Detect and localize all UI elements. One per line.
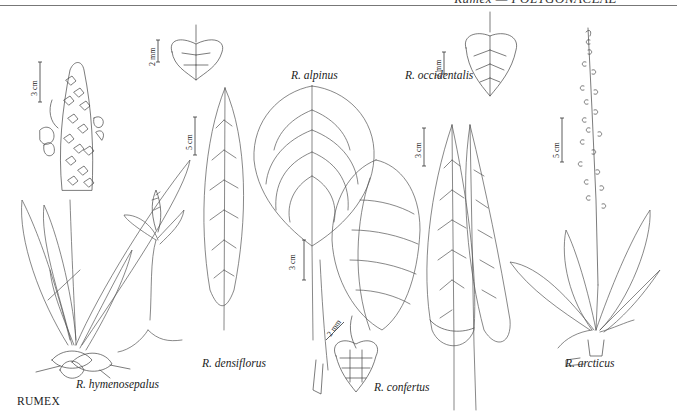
- scale-bar-line-alpinus: [302, 240, 306, 280]
- species-label-arcticus: R. arcticus: [565, 357, 614, 369]
- scale-bar-line-confertus-fruit: [326, 322, 344, 340]
- scale-bar-line-hymenosepalus: [38, 62, 42, 102]
- species-label-confertus: R. confertus: [374, 381, 430, 393]
- scale-bars: [0, 0, 677, 418]
- scale-bar-line-densiflorus-fruit: [156, 40, 160, 62]
- scale-bar-line-arcticus: [560, 118, 564, 162]
- species-label-occidentalis: R. occidentalis: [405, 69, 473, 81]
- species-label-densiflorus: R. densiflorus: [202, 357, 266, 369]
- species-label-hymenosepalus: R. hymenosepalus: [76, 378, 159, 390]
- genus-caption: RUMEX: [17, 395, 60, 407]
- species-label-alpinus: R. alpinus: [291, 69, 338, 81]
- scale-bar-line-occidentalis-leaf: [422, 128, 426, 166]
- scale-bar-line-densiflorus-leaf: [193, 117, 197, 155]
